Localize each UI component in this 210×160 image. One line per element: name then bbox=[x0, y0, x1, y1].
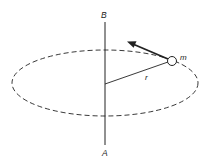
circular-motion-diagram: B A m r bbox=[0, 0, 210, 160]
mass-circle bbox=[168, 57, 177, 66]
label-a: A bbox=[101, 148, 108, 158]
label-r: r bbox=[145, 73, 148, 82]
label-m: m bbox=[180, 53, 187, 62]
velocity-arrow bbox=[134, 45, 168, 60]
label-b: B bbox=[101, 10, 107, 20]
radius-line bbox=[105, 62, 168, 84]
